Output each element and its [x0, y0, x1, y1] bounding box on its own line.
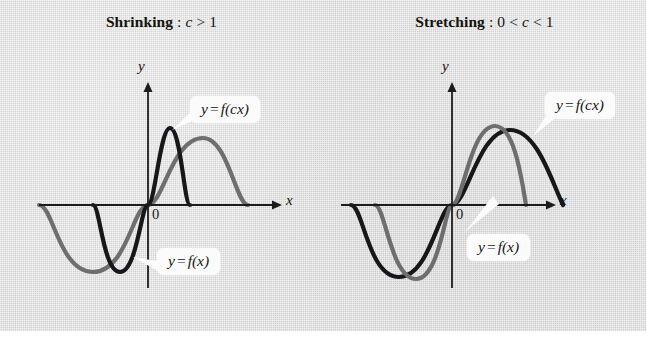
- shrinking-callout-fcx-fn: f(cx): [221, 100, 249, 117]
- shrinking-callout-fcx: y=f(cx): [190, 96, 260, 123]
- stretching-x-axis-label: x: [560, 192, 567, 209]
- stretching-callout-fcx: y=f(cx): [545, 92, 615, 119]
- shrinking-origin-label: 0: [152, 206, 159, 223]
- panel-stretching: Stretching : 0 < c < 1 y x 0 y=f(cx) y=f…: [323, 0, 646, 331]
- stretching-callout-fcx-eq: =: [563, 96, 576, 113]
- shrinking-callout-fx-y: y: [168, 252, 175, 269]
- stretching-callout-fcx-fn: f(cx): [576, 96, 604, 113]
- stretching-callout-fx-y: y: [478, 238, 485, 255]
- transformation-figure: Shrinking : c > 1 y x 0 y=f(cx) y=f(x): [0, 0, 646, 351]
- shrinking-callout-fx-fn: f(x): [188, 252, 210, 269]
- shrinking-callout-fcx-y: y: [201, 100, 208, 117]
- shrinking-x-axis-label: x: [286, 192, 293, 209]
- shrinking-y-axis-label: y: [138, 58, 145, 75]
- shrinking-x-axis-arrow: [272, 201, 282, 210]
- stretching-leader-fx: [465, 196, 499, 232]
- stretching-origin-label: 0: [456, 206, 463, 223]
- panel-shrinking: Shrinking : c > 1 y x 0 y=f(cx) y=f(x): [0, 0, 323, 331]
- stretching-y-axis-arrow: [448, 82, 457, 92]
- stretching-callout-fx: y=f(x): [467, 234, 530, 261]
- shrinking-callout-fx: y=f(x): [157, 248, 220, 275]
- stretching-callout-fx-fn: f(x): [498, 238, 520, 255]
- stretching-x-axis-arrow: [546, 201, 556, 210]
- shrinking-callout-fx-eq: =: [175, 252, 188, 269]
- shrinking-graph: [0, 0, 323, 331]
- stretching-y-axis-label: y: [442, 58, 449, 75]
- shrinking-y-axis-arrow: [144, 82, 153, 92]
- stretching-callout-fcx-y: y: [556, 96, 563, 113]
- stretching-callout-fx-eq: =: [485, 238, 498, 255]
- bottom-white-strip: [0, 331, 646, 351]
- stretching-graph: [323, 0, 646, 331]
- shrinking-callout-fcx-eq: =: [208, 100, 221, 117]
